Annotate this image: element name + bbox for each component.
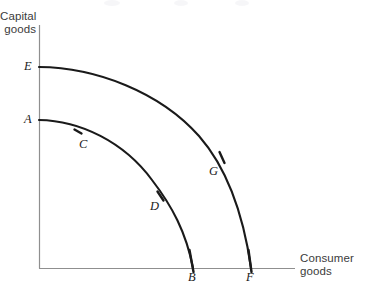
inner-frontier-curve [39, 120, 193, 268]
point-tick-c [75, 130, 82, 134]
y-axis-title-line2: goods [0, 23, 36, 36]
x-axis-title-line2: goods [300, 265, 354, 278]
point-label-e: E [24, 59, 32, 74]
point-label-f: F [246, 270, 254, 285]
point-label-b: B [188, 270, 196, 285]
ppf-figure: Capital goods Consumer goods A E C D G B… [0, 0, 381, 300]
y-axis-title-line1: Capital [0, 10, 36, 23]
x-axis-title: Consumer goods [300, 252, 354, 278]
point-label-c: C [79, 137, 87, 152]
y-axis-title: Capital goods [0, 10, 36, 36]
point-tick-g [220, 152, 225, 163]
outer-frontier-curve [39, 67, 251, 268]
x-axis-title-line1: Consumer [300, 252, 354, 265]
point-label-g: G [209, 164, 218, 179]
point-label-d: D [150, 199, 159, 214]
point-label-a: A [24, 112, 32, 127]
